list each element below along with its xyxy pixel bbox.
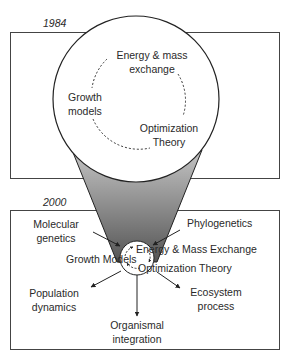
output-population-dynamics: Population: [29, 287, 79, 299]
input-molecular-genetics-line2: genetics: [36, 232, 75, 244]
input-molecular-genetics: Molecular: [33, 218, 79, 230]
output-ecosystem-process-line2: process: [198, 300, 235, 312]
diagram-canvas: 1984 2000 Energy & mass exchange Growth …: [0, 0, 290, 357]
input-phylogenetics: Phylogenetics: [187, 217, 252, 229]
output-organismal-integration: Organismal: [110, 319, 164, 331]
arrow-ecosystem-out: [157, 272, 180, 288]
topic-optimization-1984-line2: Theory: [153, 136, 186, 148]
topic-energy-1984-line2: exchange: [129, 63, 175, 75]
topic-growth-1984: Growth: [68, 91, 102, 103]
year-1984-label: 1984: [43, 17, 67, 29]
output-population-dynamics-line2: dynamics: [32, 301, 76, 313]
arrow-population-out: [91, 271, 121, 287]
topic-growth-1984-line2: models: [68, 105, 102, 117]
core-optimization-2000: Optimization Theory: [138, 262, 233, 274]
output-organismal-integration-line2: integration: [112, 333, 161, 345]
year-2000-label: 2000: [42, 196, 67, 208]
topic-optimization-1984: Optimization: [140, 122, 199, 134]
core-growth-2000: Growth Models: [66, 253, 137, 265]
topic-energy-1984: Energy & mass: [116, 49, 187, 61]
output-ecosystem-process: Ecosystem: [190, 286, 242, 298]
